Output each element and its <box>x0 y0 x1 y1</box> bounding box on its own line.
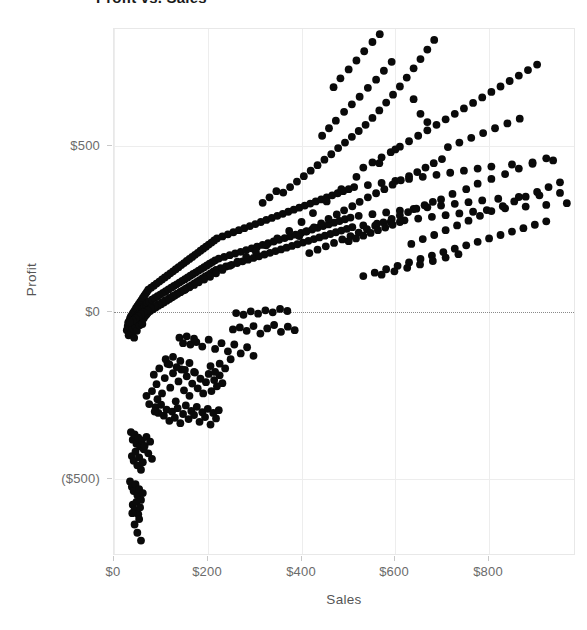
tick-mark-x <box>113 556 114 561</box>
tick-mark-y <box>107 145 112 146</box>
tick-label-y: $500 <box>30 138 100 153</box>
tick-mark-x <box>394 556 395 561</box>
tick-label-y: $0 <box>30 304 100 319</box>
tick-label-x: $400 <box>286 564 316 579</box>
tick-label-x: $600 <box>379 564 409 579</box>
chart-title: Profit vs. Sales <box>96 0 207 6</box>
x-axis-title: Sales <box>113 592 575 607</box>
tick-mark-x <box>207 556 208 561</box>
tick-label-x: $0 <box>106 564 121 579</box>
scatter-chart: Profit vs. Sales $0 $200 $400 $600 $800 … <box>0 0 587 630</box>
data-points-layer <box>114 29 575 555</box>
tick-label-y: ($500) <box>30 471 100 486</box>
tick-mark-y <box>107 478 112 479</box>
tick-label-x: $800 <box>473 564 503 579</box>
tick-mark-x <box>301 556 302 561</box>
plot-area <box>113 28 575 555</box>
y-axis-title: Profit <box>24 262 39 298</box>
tick-label-x: $200 <box>192 564 222 579</box>
tick-mark-x <box>488 556 489 561</box>
tick-mark-y <box>107 311 112 312</box>
